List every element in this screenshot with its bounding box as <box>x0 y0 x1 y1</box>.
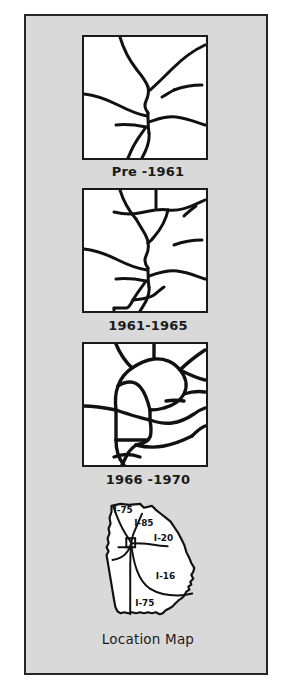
panel-1966-1970 <box>82 342 208 467</box>
panel-location-map: I-75 I-85 I-20 I-16 I-75 <box>82 496 208 626</box>
caption-location-map: Location Map <box>26 632 270 647</box>
road-network-pre-1961 <box>84 37 206 158</box>
caption-1966-1970: 1966 -1970 <box>26 472 270 487</box>
road-network-1961-1965 <box>84 190 206 311</box>
highway-label-i16: I-16 <box>156 571 175 581</box>
caption-pre-1961: Pre -1961 <box>26 164 270 179</box>
georgia-state-map: I-75 I-85 I-20 I-16 I-75 <box>82 496 208 626</box>
highway-label-i85: I-85 <box>134 518 153 528</box>
figure-frame: Pre -1961 <box>24 14 268 675</box>
caption-1961-1965: 1961-1965 <box>26 318 270 333</box>
highway-label-i20: I-20 <box>154 533 173 543</box>
road-network-1966-1970 <box>84 344 206 465</box>
highway-label-i75-north: I-75 <box>113 505 132 515</box>
panel-1961-1965 <box>82 188 208 313</box>
panel-pre-1961 <box>82 35 208 160</box>
highway-label-i75-south: I-75 <box>135 598 154 608</box>
figure-root: Pre -1961 <box>0 0 282 691</box>
